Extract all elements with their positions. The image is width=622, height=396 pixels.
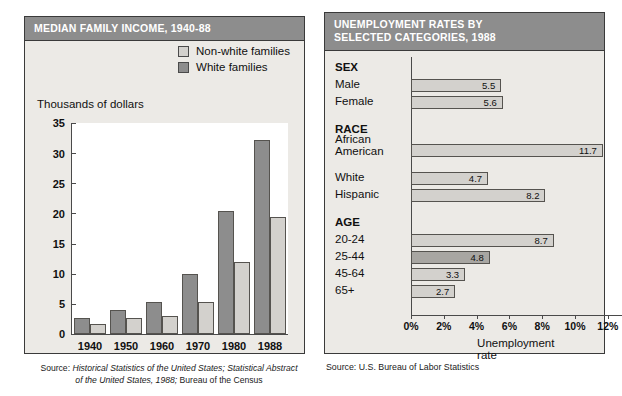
x-tick-label-1940: 1940 [78, 334, 102, 352]
bar-1960-white [146, 302, 162, 335]
legend: Non-white families White families [178, 45, 290, 77]
x-tick-label-1950: 1950 [114, 334, 138, 352]
row-label-20-24: 20-24 [335, 233, 364, 245]
y-tick-5: 5 [59, 298, 72, 310]
hbar-value-label: 4.7 [469, 173, 482, 184]
bar-1940-nonwhite [90, 324, 106, 334]
right-chart-title-line1: UNEMPLOYMENT RATES BY [334, 18, 483, 30]
hbar-65-: 2.7 [411, 285, 455, 298]
bar-group-1950: 1950 [110, 310, 142, 334]
hbar-hispanic: 8.2 [411, 189, 545, 202]
y-axis-caption: Thousands of dollars [37, 98, 144, 110]
hbar-value-label: 8.2 [526, 190, 539, 201]
median-family-income-panel: MEDIAN FAMILY INCOME, 1940-88 Non-white … [24, 16, 305, 354]
row-label-white: White [335, 171, 364, 183]
hbar-25-44: 4.8 [411, 251, 490, 264]
left-source-plain-2: Bureau of the Census [177, 375, 263, 385]
row-label-male: Male [335, 78, 360, 90]
right-chart-title-line2: SELECTED CATEGORIES, 1988 [334, 31, 496, 43]
x-tick-label-4: 4% [469, 320, 484, 332]
left-chart-body: Non-white families White families Thousa… [25, 41, 304, 352]
bar-1980-nonwhite [234, 262, 250, 334]
y-tick-mark [72, 244, 76, 245]
bar-group-1988: 1988 [254, 140, 286, 335]
hbar-value-label: 5.5 [482, 80, 495, 91]
right-chart-body: SEXMale5.5Female5.6RACEAfricanAmerican11… [325, 51, 604, 353]
x-tick-mark-0 [411, 315, 412, 319]
row-label-45-64: 45-64 [335, 267, 364, 279]
x-tick-label-1960: 1960 [150, 334, 174, 352]
hbar-male: 5.5 [411, 79, 501, 92]
bar-group-1980: 1980 [218, 211, 250, 335]
bar-1940-white [74, 318, 90, 334]
x-tick-mark-8 [542, 315, 543, 319]
legend-item-nonwhite: Non-white families [178, 45, 290, 57]
row-label-hispanic: Hispanic [335, 188, 379, 200]
x-tick-mark-10 [575, 315, 576, 319]
left-source-italic-1: Historical Statistics of the United Stat… [72, 363, 297, 373]
bar-1970-nonwhite [198, 302, 214, 335]
right-chart-title: UNEMPLOYMENT RATES BY SELECTED CATEGORIE… [325, 13, 604, 51]
bar-1950-white [110, 310, 126, 334]
hbar-value-label: 8.7 [534, 235, 547, 246]
legend-label-white: White families [196, 61, 268, 73]
x-tick-label-8: 8% [535, 320, 550, 332]
x-tick-label-12: 12% [597, 320, 618, 332]
hbar-value-label: 5.6 [484, 97, 497, 108]
bar-1988-white [254, 140, 270, 335]
x-tick-mark-12 [608, 315, 609, 319]
x-tick-mark-2 [444, 315, 445, 319]
bar-1960-nonwhite [162, 316, 178, 335]
row-label-female: Female [335, 95, 373, 107]
y-tick-mark [72, 213, 76, 214]
hbar-african-american: 11.7 [411, 144, 603, 157]
legend-item-white: White families [178, 61, 290, 73]
bar-group-1960: 1960 [146, 302, 178, 335]
x-tick-label-0: 0% [403, 320, 418, 332]
x-tick-mark-6 [509, 315, 510, 319]
y-tick-10: 10 [53, 268, 72, 280]
x-axis-line [411, 315, 622, 316]
group-heading-sex: SEX [335, 61, 358, 73]
legend-swatch-icon [178, 62, 189, 73]
y-tick-mark [72, 123, 76, 124]
left-plot-area: 05101520253035 194019501960197019801988 [71, 123, 288, 335]
y-tick-mark [72, 274, 76, 275]
left-source-italic-2: of the United States, 1988; [75, 375, 177, 385]
y-tick-20: 20 [53, 208, 72, 220]
bar-1950-nonwhite [126, 318, 142, 335]
hbar-value-label: 11.7 [579, 145, 597, 156]
y-tick-mark [72, 304, 76, 305]
bar-group-1970: 1970 [182, 274, 214, 335]
x-tick-label-1970: 1970 [186, 334, 210, 352]
right-source-note: Source: U.S. Bureau of Labor Statistics [326, 362, 479, 372]
bar-1988-nonwhite [270, 217, 286, 335]
x-tick-label-1980: 1980 [222, 334, 246, 352]
hbar-value-label: 3.3 [446, 269, 459, 280]
y-tick-35: 35 [53, 117, 72, 129]
y-tick-15: 15 [53, 238, 72, 250]
hbar-white: 4.7 [411, 172, 488, 185]
hbar-female: 5.6 [411, 96, 503, 109]
x-axis-title: Unemployment rate [477, 337, 562, 361]
hbar-20-24: 8.7 [411, 234, 554, 247]
legend-label-nonwhite: Non-white families [196, 45, 290, 57]
row-label-65-: 65+ [335, 284, 355, 296]
x-tick-label-2: 2% [436, 320, 451, 332]
bar-1970-white [182, 274, 198, 335]
y-tick-mark [72, 153, 76, 154]
left-source-note: Source: Historical Statistics of the Uni… [24, 362, 314, 387]
legend-swatch-icon [178, 46, 189, 57]
row-label-african-american: AfricanAmerican [335, 133, 384, 158]
y-tick-0: 0 [59, 328, 72, 340]
hbar-value-label: 2.7 [436, 286, 449, 297]
x-tick-label-6: 6% [502, 320, 517, 332]
y-tick-25: 25 [53, 178, 72, 190]
left-source-prefix: Source: [40, 363, 72, 373]
x-tick-label-1988: 1988 [258, 334, 282, 352]
bar-1980-white [218, 211, 234, 335]
group-heading-age: AGE [335, 216, 360, 228]
x-tick-label-10: 10% [564, 320, 585, 332]
row-label-25-44: 25-44 [335, 250, 364, 262]
y-tick-mark [72, 183, 76, 184]
